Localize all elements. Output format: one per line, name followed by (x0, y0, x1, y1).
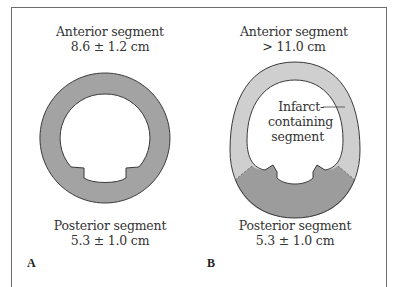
callout-line-2: containing (268, 114, 324, 129)
panel-a-ring (40, 73, 170, 203)
callout-line-1: Infarct- (268, 99, 324, 114)
panel-a-letter: A (27, 256, 36, 271)
panel-b-anterior-title: Anterior segment (224, 24, 364, 39)
panel-a-posterior-value: 5.3 ± 1.0 cm (40, 233, 180, 248)
panel-b-posterior-title: Posterior segment (225, 218, 365, 233)
panel-b-letter: B (207, 256, 215, 271)
panel-b-posterior-label: Posterior segment 5.3 ± 1.0 cm (225, 218, 365, 248)
panel-b-anterior-value: > 11.0 cm (224, 39, 364, 54)
panel-a-posterior-label: Posterior segment 5.3 ± 1.0 cm (40, 218, 180, 248)
infarct-callout: Infarct- containing segment (268, 99, 324, 144)
panel-a-posterior-title: Posterior segment (40, 218, 180, 233)
panel-b-posterior-value: 5.3 ± 1.0 cm (225, 233, 365, 248)
panel-b-anterior-label: Anterior segment > 11.0 cm (224, 24, 364, 54)
callout-line-3: segment (268, 129, 324, 144)
